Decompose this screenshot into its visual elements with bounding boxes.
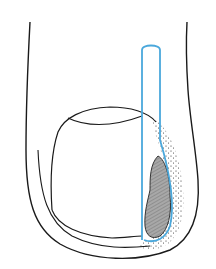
illustration	[0, 0, 216, 269]
nail-free-edge	[68, 116, 142, 125]
nail-lateral-lower	[52, 210, 142, 238]
nail-fold-line	[38, 150, 150, 247]
nail-plate	[51, 107, 156, 210]
finger-diagram	[0, 0, 216, 269]
